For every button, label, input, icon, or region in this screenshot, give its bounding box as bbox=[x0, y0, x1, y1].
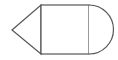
triangle-shape bbox=[12, 5, 41, 54]
square-shape bbox=[41, 5, 89, 54]
semicircle-shape bbox=[89, 5, 113, 54]
composite-shape-diagram bbox=[0, 0, 118, 60]
